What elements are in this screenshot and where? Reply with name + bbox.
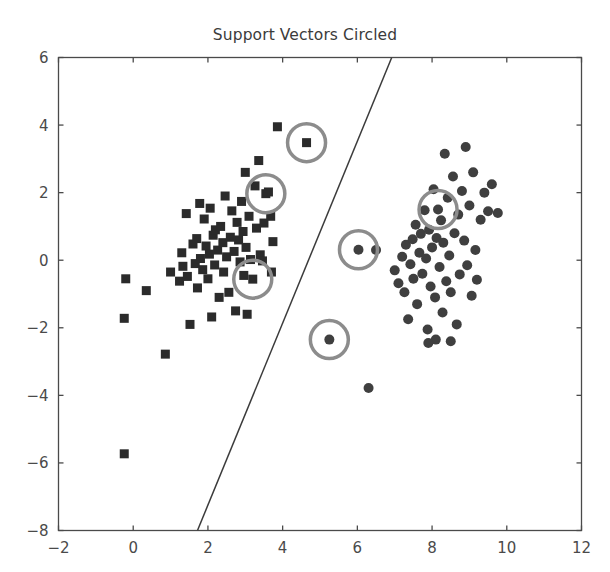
y-tick-label: −4 (26, 387, 48, 405)
data-point-square (239, 227, 248, 236)
data-point-circle (417, 269, 427, 279)
data-layer (120, 58, 503, 531)
data-point-square (200, 214, 209, 223)
data-point-square (264, 187, 273, 196)
data-point-circle (459, 236, 469, 246)
data-point-circle (464, 200, 474, 210)
data-point-square (120, 449, 129, 458)
data-point-square (196, 254, 205, 263)
y-tick-label: 0 (39, 252, 49, 270)
data-point-circle (423, 338, 433, 348)
data-point-square (241, 168, 250, 177)
data-point-circle (479, 188, 489, 198)
x-tick-label: 0 (128, 539, 138, 557)
data-point-square (161, 350, 170, 359)
data-point-square (177, 248, 186, 257)
data-point-circle (364, 383, 374, 393)
data-point-circle (455, 269, 465, 279)
data-point-square (175, 277, 184, 286)
data-point-square (227, 206, 236, 215)
data-point-square (242, 243, 251, 252)
data-point-square (224, 288, 233, 297)
data-point-circle (470, 245, 480, 255)
data-point-square (215, 293, 224, 302)
data-point-square (120, 314, 129, 323)
data-point-square (142, 286, 151, 295)
data-point-square (237, 197, 246, 206)
y-tick-label: 2 (39, 184, 49, 202)
y-tick-label: −8 (26, 522, 48, 540)
data-point-circle (476, 215, 486, 225)
data-point-circle (408, 274, 418, 284)
data-point-square (233, 218, 242, 227)
data-point-circle (487, 179, 497, 189)
data-point-circle (446, 287, 456, 297)
data-point-circle (438, 238, 448, 248)
data-point-circle (393, 278, 403, 288)
data-point-circle (408, 234, 418, 244)
data-point-circle (446, 336, 456, 346)
data-point-circle (399, 287, 409, 297)
data-point-circle (423, 324, 433, 334)
data-point-circle (324, 335, 334, 345)
data-point-square (121, 274, 130, 283)
data-point-square (178, 262, 187, 271)
data-point-circle (449, 228, 459, 238)
data-point-square (203, 274, 212, 283)
data-point-circle (397, 252, 407, 262)
data-point-square (230, 247, 239, 256)
data-point-square (182, 209, 191, 218)
data-point-circle (433, 205, 443, 215)
data-point-square (210, 260, 219, 269)
data-point-circle (435, 262, 445, 272)
data-point-circle (412, 299, 422, 309)
data-point-square (206, 204, 215, 213)
series-class-0 (120, 122, 311, 458)
data-point-circle (448, 171, 458, 181)
y-tick-label: −2 (26, 319, 48, 337)
data-point-circle (390, 265, 400, 275)
data-point-circle (467, 291, 477, 301)
data-point-square (207, 312, 216, 321)
data-point-square (183, 272, 192, 281)
data-point-square (205, 250, 214, 259)
data-point-circle (438, 308, 448, 318)
data-point-square (216, 222, 225, 231)
data-point-square (239, 271, 248, 280)
data-point-circle (468, 167, 478, 177)
data-point-square (166, 268, 175, 277)
data-point-square (221, 192, 230, 201)
y-tick-label: 4 (39, 117, 49, 135)
data-point-square (192, 234, 201, 243)
data-point-circle (426, 282, 436, 292)
data-point-square (231, 306, 240, 315)
data-point-circle (444, 250, 454, 260)
data-point-square (268, 237, 277, 246)
x-tick-label: 8 (427, 539, 437, 557)
y-tick-label: 6 (39, 49, 49, 67)
figure-canvas: Support Vectors Circled −2024681012−8−6−… (0, 0, 610, 572)
data-point-circle (405, 259, 415, 269)
data-point-circle (440, 149, 450, 159)
data-point-circle (403, 314, 413, 324)
data-point-circle (461, 142, 471, 152)
data-point-square (245, 212, 254, 221)
data-point-circle (462, 260, 472, 270)
data-point-circle (493, 208, 503, 218)
x-tick-label: 10 (497, 539, 516, 557)
data-point-circle (430, 292, 440, 302)
data-point-circle (436, 215, 446, 225)
data-point-circle (452, 319, 462, 329)
data-point-square (273, 122, 282, 131)
data-point-square (243, 310, 252, 319)
data-point-square (195, 199, 204, 208)
data-point-circle (427, 242, 437, 252)
data-point-circle (353, 245, 363, 255)
data-point-square (219, 268, 228, 277)
data-point-circle (421, 254, 431, 264)
data-point-square (254, 156, 263, 165)
data-point-square (198, 265, 207, 274)
data-point-circle (457, 186, 467, 196)
data-point-square (302, 138, 311, 147)
x-tick-label: 12 (572, 539, 591, 557)
